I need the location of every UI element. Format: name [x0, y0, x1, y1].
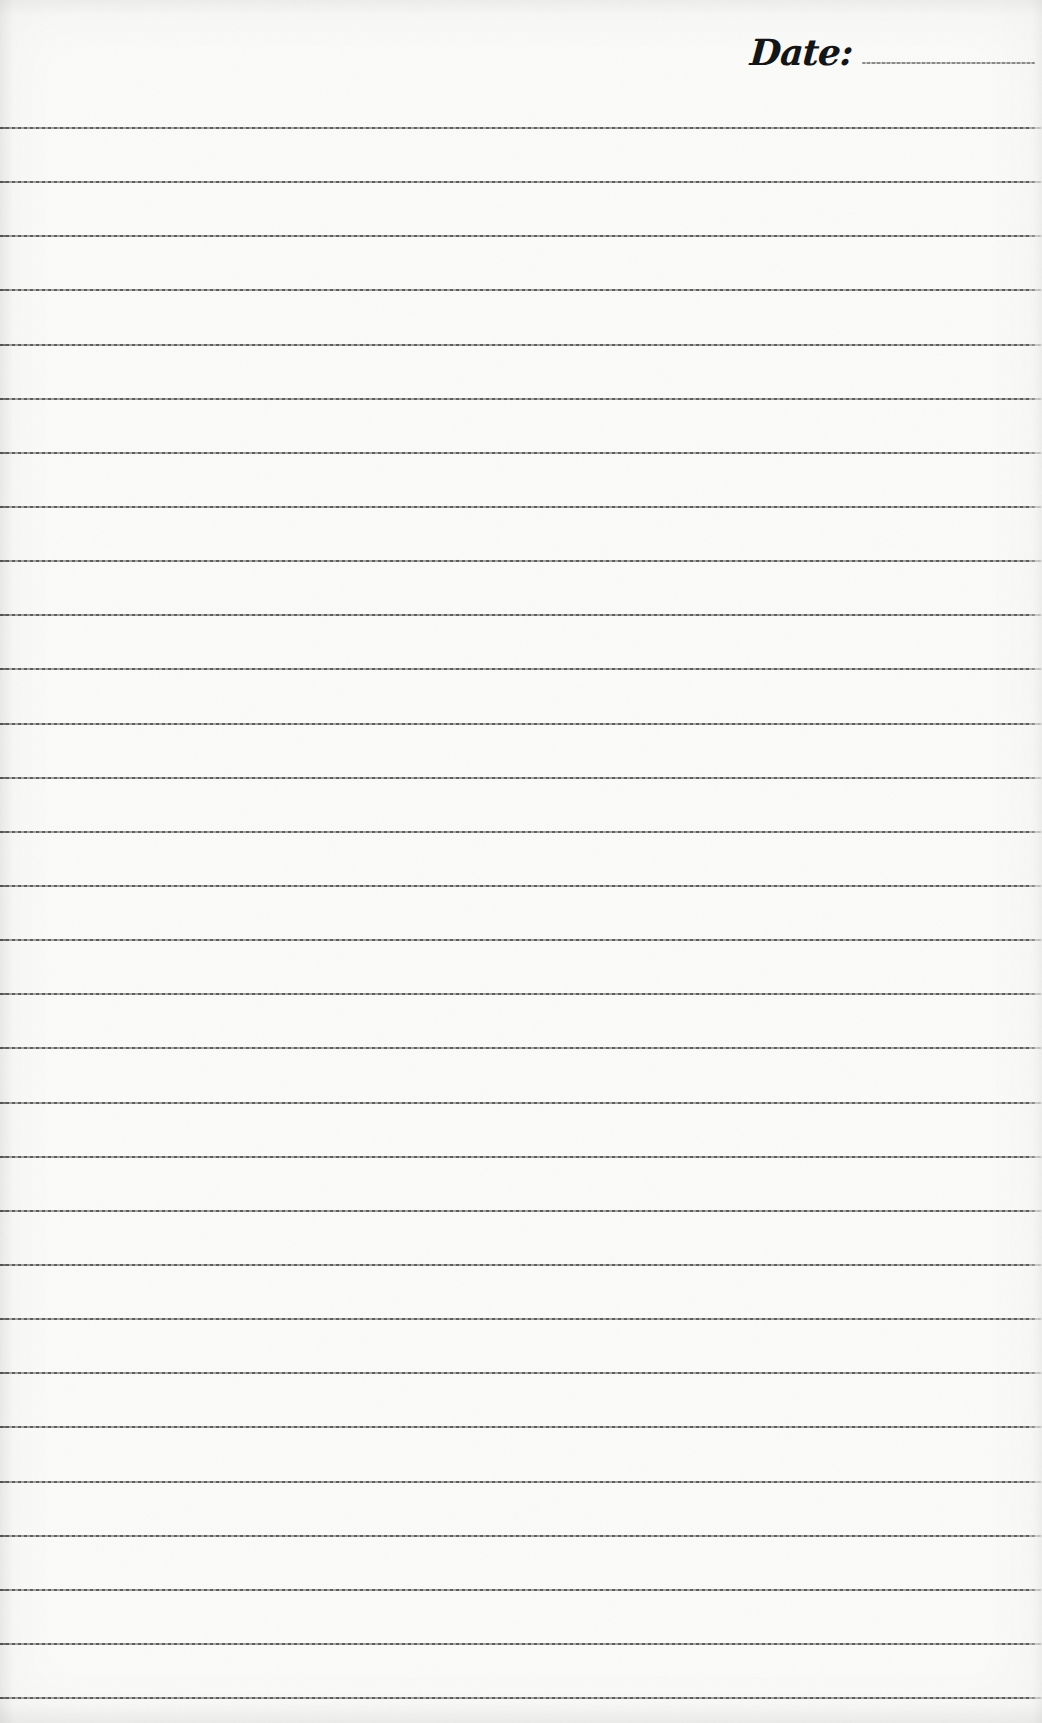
ruled-line — [0, 993, 1042, 995]
ruled-line — [0, 1535, 1042, 1537]
ruled-line — [0, 723, 1042, 725]
ruled-line — [0, 1047, 1042, 1049]
ruled-line — [0, 1102, 1042, 1104]
ruled-line — [0, 1697, 1042, 1699]
ruled-line — [0, 831, 1042, 833]
ruled-line — [0, 1643, 1042, 1645]
ruled-line — [0, 235, 1042, 237]
notebook-page: Date: — [0, 0, 1042, 1723]
ruled-line — [0, 1426, 1042, 1428]
ruled-line — [0, 1210, 1042, 1212]
ruled-line — [0, 127, 1042, 129]
ruled-line — [0, 1481, 1042, 1483]
ruled-lines-area — [0, 0, 1042, 1723]
ruled-line — [0, 614, 1042, 616]
ruled-line — [0, 181, 1042, 183]
ruled-line — [0, 1372, 1042, 1374]
ruled-line — [0, 777, 1042, 779]
ruled-line — [0, 560, 1042, 562]
ruled-line — [0, 1156, 1042, 1158]
ruled-line — [0, 289, 1042, 291]
ruled-line — [0, 398, 1042, 400]
ruled-line — [0, 506, 1042, 508]
ruled-line — [0, 939, 1042, 941]
ruled-line — [0, 452, 1042, 454]
ruled-line — [0, 1589, 1042, 1591]
ruled-line — [0, 1264, 1042, 1266]
ruled-line — [0, 885, 1042, 887]
ruled-line — [0, 668, 1042, 670]
ruled-line — [0, 1318, 1042, 1320]
ruled-line — [0, 344, 1042, 346]
